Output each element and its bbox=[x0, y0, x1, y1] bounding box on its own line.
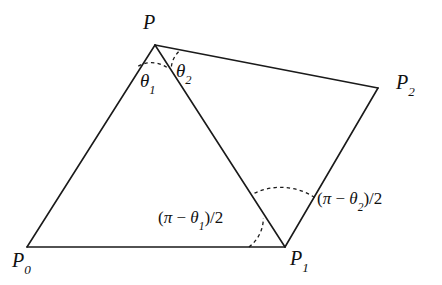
angle-arc-half-pi-minus-theta2 bbox=[255, 187, 317, 198]
figure-canvas bbox=[0, 0, 442, 285]
edge-p0-to-p bbox=[27, 45, 155, 247]
vertex-label-p0: P0 bbox=[12, 250, 31, 274]
vertex-label-p: P bbox=[143, 12, 155, 36]
angle-label-theta1: θ1 bbox=[140, 71, 156, 94]
angle-arc-half-pi-minus-theta1 bbox=[249, 218, 263, 247]
edge-p2-to-p1 bbox=[285, 88, 378, 247]
angle-label-half-pi-minus-theta1: (π − θ1)/2 bbox=[158, 209, 223, 230]
vertex-label-p1: P1 bbox=[290, 248, 309, 272]
angle-label-theta2: θ2 bbox=[176, 61, 192, 84]
vertex-label-p2: P2 bbox=[396, 72, 415, 96]
angle-label-half-pi-minus-theta2: (π − θ2)/2 bbox=[317, 190, 382, 211]
geometry-figure: P P0 P1 P2 θ1 θ2 (π − θ1)/2 (π − θ2)/2 bbox=[0, 0, 442, 285]
